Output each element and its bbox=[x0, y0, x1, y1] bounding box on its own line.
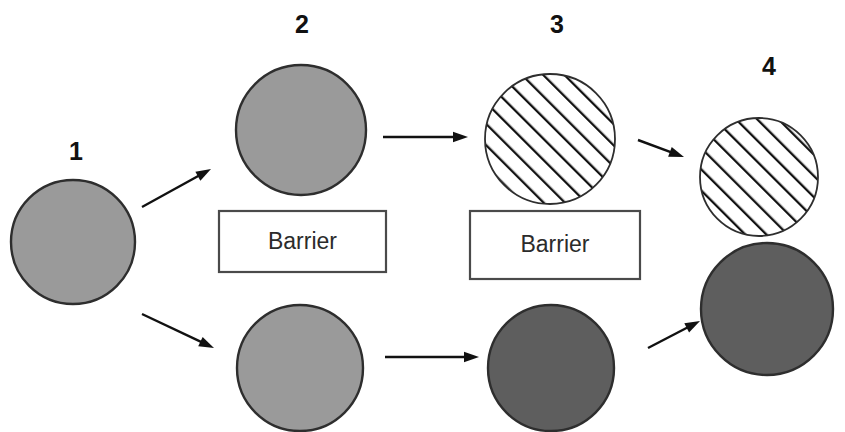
arrow-3-to-4-bottom bbox=[648, 321, 700, 348]
circle-stage-4-top bbox=[700, 118, 818, 236]
arrow-1-to-2-top bbox=[142, 169, 211, 207]
particle-circle-stage-4-top bbox=[700, 118, 818, 236]
barrier-right-label: Barrier bbox=[520, 231, 589, 257]
stage-labels-layer: 1234 bbox=[69, 10, 776, 165]
particle-circle-stage-1 bbox=[11, 180, 135, 304]
arrow-2-to-3-bottom-head bbox=[464, 352, 479, 362]
arrow-2-to-3-top-head bbox=[453, 132, 468, 142]
circle-stage-2-bottom bbox=[237, 305, 363, 431]
arrow-3-to-4-bottom-line bbox=[648, 327, 689, 348]
barrier-right: Barrier bbox=[470, 211, 640, 279]
arrow-1-to-2-top-line bbox=[142, 175, 200, 207]
circle-stage-3-bottom bbox=[488, 305, 614, 431]
arrow-1-to-2-top-head bbox=[195, 169, 211, 181]
stage-4-label: 4 bbox=[762, 52, 776, 80]
arrow-3-to-4-top-line bbox=[638, 140, 673, 153]
particle-circle-stage-2-top bbox=[236, 65, 366, 195]
particle-circle-stage-4-bottom bbox=[701, 243, 833, 375]
circle-stage-2-top bbox=[236, 65, 366, 195]
stage-1-label: 1 bbox=[69, 137, 83, 165]
diagram-canvas: BarrierBarrier 1234 bbox=[0, 0, 845, 432]
barrier-left: Barrier bbox=[219, 211, 386, 272]
particle-circle-stage-3-top bbox=[485, 74, 615, 204]
particle-circle-stage-2-bottom bbox=[237, 305, 363, 431]
circle-stage-3-top bbox=[485, 74, 615, 204]
arrow-3-to-4-bottom-head bbox=[684, 321, 700, 333]
stage-3-label: 3 bbox=[550, 10, 564, 38]
circle-stage-4-bottom bbox=[701, 243, 833, 375]
circle-stage-1 bbox=[11, 180, 135, 304]
barrier-left-label: Barrier bbox=[268, 228, 337, 254]
arrow-1-to-2-bottom bbox=[142, 314, 214, 348]
barriers-layer: BarrierBarrier bbox=[219, 211, 640, 279]
arrow-3-to-4-top-head bbox=[668, 147, 684, 157]
arrow-3-to-4-top bbox=[638, 140, 684, 157]
stage-2-label: 2 bbox=[295, 10, 309, 38]
particle-circle-stage-3-bottom bbox=[488, 305, 614, 431]
arrow-1-to-2-bottom-head bbox=[198, 337, 214, 348]
arrow-1-to-2-bottom-line bbox=[142, 314, 203, 343]
arrow-2-to-3-bottom bbox=[385, 352, 479, 362]
arrow-2-to-3-top bbox=[383, 132, 468, 142]
circles-layer bbox=[11, 65, 833, 431]
process-diagram: BarrierBarrier 1234 bbox=[0, 0, 845, 432]
